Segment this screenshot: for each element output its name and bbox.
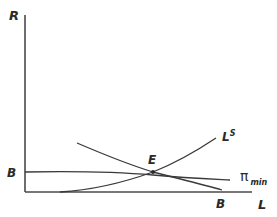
bb-curve-start-label: B <box>7 166 16 180</box>
labor-supply-label: LS <box>222 129 236 144</box>
y-axis-label: R <box>9 8 19 23</box>
pi-min-curve <box>25 172 230 180</box>
bb-curve-end-label: B <box>216 197 225 211</box>
pi-min-label: πmin <box>240 168 268 187</box>
diagram-canvas: R L E B B LS πmin <box>0 0 277 217</box>
x-axis-label: L <box>258 197 266 212</box>
equilibrium-label: E <box>148 153 157 167</box>
equilibrium-point <box>151 170 155 174</box>
